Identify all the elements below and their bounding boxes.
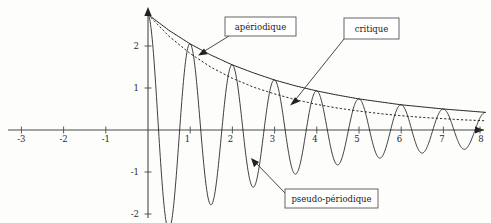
callout-label-critique: critique xyxy=(355,24,389,34)
y-tick-label: -2 xyxy=(131,209,139,219)
callout-aperiodique[interactable]: apériodique xyxy=(198,17,296,56)
callout-leader-line xyxy=(256,163,285,193)
x-tick-label: -1 xyxy=(102,134,110,144)
callout-arrow-icon xyxy=(251,158,259,167)
y-tick-label: 2 xyxy=(134,41,139,51)
x-tick-label: 3 xyxy=(270,134,275,144)
x-tick-label: 8 xyxy=(478,134,483,144)
callout-leader-line xyxy=(203,36,229,52)
x-tick-label: 6 xyxy=(397,134,402,144)
x-tick-label: 5 xyxy=(354,134,359,144)
x-tick-label: 2 xyxy=(228,134,233,144)
callout-leader-line xyxy=(296,39,344,99)
callout-critique[interactable]: critique xyxy=(290,18,399,106)
callout-label-aperiodique: apériodique xyxy=(235,22,287,32)
callout-pseudo-periodique[interactable]: pseudo-périodique xyxy=(251,158,378,208)
callout-label-pseudo-periodique: pseudo-périodique xyxy=(291,194,371,204)
chart-canvas: -3 -2 -1 1 2 3 4 5 6 7 8 2 1 -1 -2 xyxy=(0,0,491,223)
x-tick-label: -2 xyxy=(59,134,67,144)
y-tick-label: 1 xyxy=(134,83,139,93)
damped-oscillation-figure: -3 -2 -1 1 2 3 4 5 6 7 8 2 1 -1 -2 xyxy=(0,0,491,223)
x-tick-label: 7 xyxy=(439,134,444,144)
y-tick-label: -1 xyxy=(131,167,139,177)
x-tick-label: 1 xyxy=(185,134,190,144)
x-tick-label: 4 xyxy=(312,134,317,144)
series-aperiodique xyxy=(148,15,486,113)
x-tick-label: -3 xyxy=(17,134,25,144)
axes-group xyxy=(8,7,484,218)
